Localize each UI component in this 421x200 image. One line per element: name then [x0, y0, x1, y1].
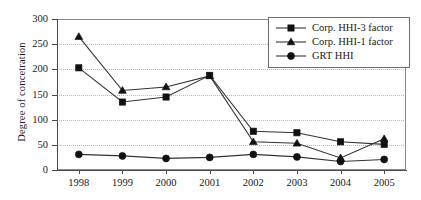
data-point: [337, 158, 344, 165]
legend-label: GRT HHI: [308, 50, 353, 62]
data-point: [163, 94, 169, 100]
data-point: [294, 130, 300, 136]
series-circle: [75, 151, 387, 165]
legend-item-circle[interactable]: GRT HHI: [274, 49, 404, 63]
data-point: [75, 151, 82, 158]
data-point: [75, 33, 83, 40]
data-point: [337, 139, 343, 145]
series-line: [79, 68, 384, 145]
chart-legend: Corp. HHI-3 factorCorp. HHI-1 factorGRT …: [268, 17, 410, 68]
data-point: [249, 138, 257, 145]
data-point: [381, 141, 387, 147]
legend-marker-square-icon: [274, 22, 308, 34]
data-point: [119, 152, 126, 159]
data-point: [381, 156, 388, 163]
legend-marker-triangle-icon: [274, 36, 308, 48]
chart-figure: Degree of concetration 05010015020025030…: [0, 0, 421, 200]
legend-item-triangle[interactable]: Corp. HHI-1 factor: [274, 35, 404, 49]
data-point: [293, 153, 300, 160]
series-square: [76, 65, 388, 148]
legend-label: Corp. HHI-1 factor: [308, 36, 393, 48]
legend-item-square[interactable]: Corp. HHI-3 factor: [274, 21, 404, 35]
data-point: [206, 154, 213, 161]
data-point: [163, 155, 170, 162]
data-point: [250, 151, 257, 158]
legend-label: Corp. HHI-3 factor: [308, 22, 393, 34]
data-point: [380, 135, 388, 142]
data-point: [119, 99, 125, 105]
legend-marker-circle-icon: [274, 50, 308, 62]
data-point: [76, 65, 82, 71]
data-point: [250, 128, 256, 134]
